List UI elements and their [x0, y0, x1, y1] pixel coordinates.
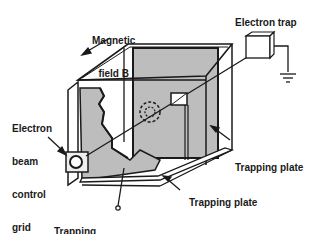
electron-trap-icon [246, 36, 270, 58]
ground-icon [280, 74, 296, 82]
voltage-terminal-icon [116, 206, 120, 210]
control-grid-label: Electron beam control grid [12, 101, 52, 234]
trapping-plate-bottom-label: Trapping plate [189, 197, 257, 208]
trapping-plate-right-label: Trapping plate [235, 162, 303, 173]
electron-trap-label: Electron trap [235, 17, 297, 28]
trapping-voltage-label: Trapping voltage [54, 204, 96, 234]
magnetic-field-label: Magnetic field B [92, 13, 135, 90]
